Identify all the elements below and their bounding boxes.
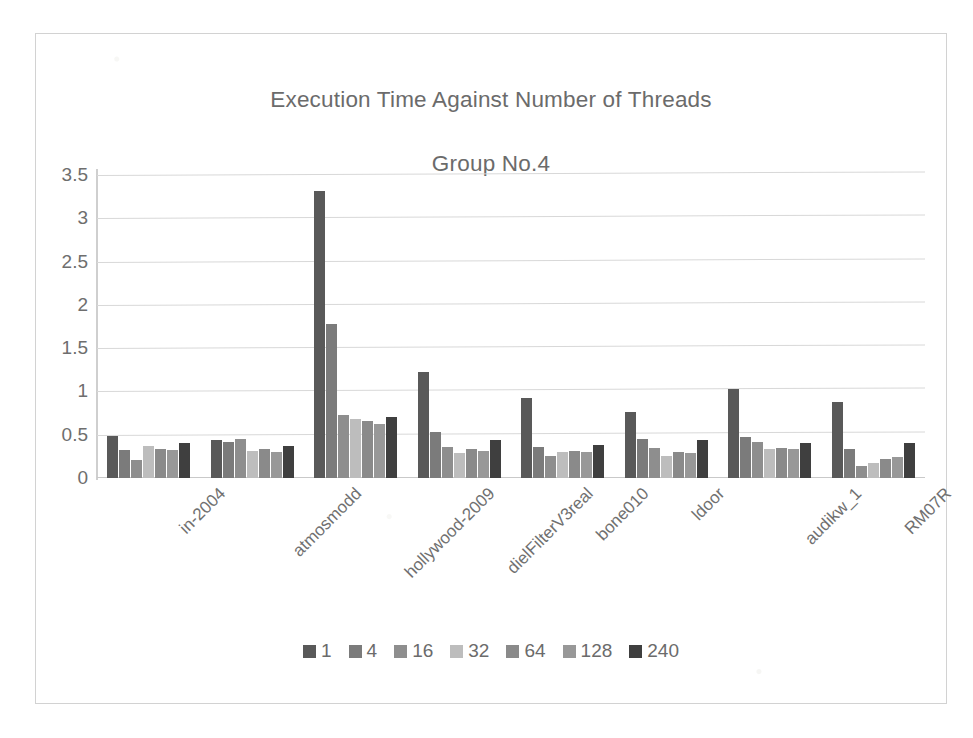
bar — [454, 453, 465, 478]
bar-group — [408, 175, 512, 478]
x-axis-category-label: atmosmodd — [289, 484, 366, 561]
y-axis-tick-label: 2 — [77, 294, 88, 316]
bar — [673, 452, 684, 478]
x-axis-category-labels: in-2004atmosmoddhollywood-2009dielFilter… — [97, 478, 925, 598]
bar — [386, 417, 397, 478]
legend-item[interactable]: 4 — [349, 640, 378, 662]
y-axis-tick-label: 1 — [77, 380, 88, 402]
bar — [593, 445, 604, 478]
bar-group — [511, 175, 615, 478]
bar — [740, 437, 751, 478]
bar — [283, 446, 294, 478]
bar — [581, 452, 592, 478]
bar — [868, 463, 879, 478]
bar — [788, 449, 799, 478]
legend-label: 32 — [468, 640, 489, 662]
y-axis-tick-label: 0 — [77, 467, 88, 489]
legend-swatch-icon — [450, 645, 463, 658]
bar — [892, 457, 903, 478]
bar — [880, 459, 891, 478]
bar — [490, 440, 501, 478]
bar — [362, 421, 373, 478]
bar — [569, 451, 580, 478]
bar-group — [97, 175, 201, 478]
bar — [637, 439, 648, 478]
bar — [167, 450, 178, 478]
legend-swatch-icon — [629, 645, 642, 658]
bar — [211, 440, 222, 478]
bar — [143, 446, 154, 478]
bar — [685, 453, 696, 478]
bar — [430, 432, 441, 478]
bar-group — [201, 175, 305, 478]
bar-group — [822, 175, 926, 478]
chart-title: Execution Time Against Number of Threads… — [35, 52, 947, 180]
legend-item[interactable]: 64 — [506, 640, 545, 662]
bar — [521, 398, 532, 478]
plot-area — [97, 175, 925, 478]
bar — [442, 447, 453, 478]
x-axis-category-label: ldoor — [688, 484, 729, 525]
bar-group — [718, 175, 822, 478]
legend-item[interactable]: 32 — [450, 640, 489, 662]
bar — [625, 412, 636, 478]
legend-item[interactable]: 16 — [394, 640, 433, 662]
y-axis-tick-label: 0.5 — [62, 424, 88, 446]
bar — [728, 389, 739, 478]
legend-label: 64 — [524, 640, 545, 662]
bar — [661, 456, 672, 479]
bar — [271, 452, 282, 478]
bar-groups — [97, 175, 925, 478]
bar — [752, 442, 763, 478]
y-axis-tick-label: 2.5 — [62, 251, 88, 273]
bar — [155, 449, 166, 478]
legend-item[interactable]: 240 — [629, 640, 679, 662]
bar — [557, 452, 568, 478]
bar — [904, 443, 915, 478]
bar — [350, 419, 361, 478]
legend-swatch-icon — [506, 645, 519, 658]
bar-group — [304, 175, 408, 478]
legend-label: 4 — [367, 640, 378, 662]
bar — [466, 449, 477, 478]
bar — [179, 443, 190, 478]
bar — [326, 324, 337, 478]
bar-group — [615, 175, 719, 478]
bar — [247, 451, 258, 478]
y-axis-tick-labels: 3.532.521.510.50 — [40, 175, 88, 478]
legend-label: 240 — [647, 640, 679, 662]
bar — [131, 460, 142, 478]
x-axis-category-label: hollywood-2009 — [401, 484, 499, 582]
legend-item[interactable]: 128 — [563, 640, 613, 662]
legend-label: 16 — [412, 640, 433, 662]
bar — [235, 439, 246, 478]
bar — [338, 415, 349, 478]
y-axis-tick-label: 1.5 — [62, 337, 88, 359]
bar — [119, 450, 130, 478]
bar — [374, 424, 385, 478]
bar — [107, 436, 118, 478]
bar — [697, 440, 708, 478]
bar — [545, 456, 556, 478]
legend-item[interactable]: 1 — [303, 640, 332, 662]
legend-label: 128 — [581, 640, 613, 662]
bar — [259, 449, 270, 478]
x-axis-category-label: dielFilterV3real — [503, 484, 597, 578]
bar — [649, 448, 660, 478]
legend-swatch-icon — [394, 645, 407, 658]
bar — [764, 449, 775, 478]
bar — [844, 449, 855, 478]
bar — [314, 191, 325, 478]
bar — [223, 442, 234, 478]
bar — [832, 402, 843, 478]
bar — [856, 466, 867, 478]
legend-label: 1 — [321, 640, 332, 662]
bar — [776, 448, 787, 478]
bar — [478, 451, 489, 478]
bar — [533, 447, 544, 478]
x-axis-category-label: bone010 — [592, 484, 653, 545]
bar — [800, 443, 811, 478]
y-axis-tick-label: 3 — [77, 207, 88, 229]
legend-swatch-icon — [349, 645, 362, 658]
y-axis-tick-label: 3.5 — [62, 164, 88, 186]
